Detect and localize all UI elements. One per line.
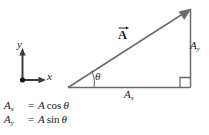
vector-a-line: [68, 13, 185, 88]
x-axis-label: x: [47, 71, 52, 82]
equation-rhs-angle: θ: [62, 113, 67, 125]
equation-rhs-function: cos: [47, 99, 62, 111]
horizontal-component-subscript: x: [131, 94, 134, 101]
equation-equals-sign: =: [24, 99, 38, 111]
equation-lhs-base: A: [4, 99, 11, 111]
triangle-group: [68, 9, 192, 88]
x-axis-arrowhead: [39, 77, 47, 83]
vertical-component-subscript: y: [197, 45, 200, 52]
equation-lhs: Ay: [4, 113, 24, 126]
origin-dot: [20, 77, 25, 82]
equation-rhs-magnitude: A: [38, 113, 45, 125]
equation-rhs-magnitude: A: [38, 99, 45, 111]
vertical-component-label: Ay: [190, 40, 200, 53]
right-angle-marker: [180, 78, 190, 88]
equation-lhs-subscript: x: [11, 105, 14, 112]
vector-a-letter: A: [118, 28, 127, 42]
equation-equals-sign: =: [24, 113, 38, 125]
equation-rhs: Acosθ: [38, 99, 69, 111]
theta-label: θ: [95, 71, 100, 82]
equation-rhs-angle: θ: [63, 99, 68, 111]
theta-arc: [92, 71, 95, 88]
vector-overbar-arrow-icon: [118, 25, 129, 30]
axes-widget: [19, 48, 46, 83]
equation-rhs: Asinθ: [38, 113, 67, 125]
equation-lhs-subscript: y: [11, 119, 14, 126]
equation-lhs: Ax: [4, 99, 24, 112]
vector-a-arrowhead: [179, 9, 192, 20]
equation-rhs-function: sin: [47, 113, 60, 125]
vector-components-figure: y x A Ay Ax θ Ax = Acosθ Ay = Asinθ: [0, 0, 209, 135]
vector-a-label: A: [118, 29, 127, 42]
equation-lhs-base: A: [4, 113, 11, 125]
horizontal-component-label: Ax: [124, 89, 134, 102]
equation-row: Ay = Asinθ: [4, 113, 69, 127]
equation-row: Ax = Acosθ: [4, 99, 69, 113]
equations-block: Ax = Acosθ Ay = Asinθ: [4, 99, 69, 127]
y-axis-label: y: [17, 39, 22, 50]
vertical-component-base: A: [190, 39, 197, 51]
horizontal-component-base: A: [124, 88, 131, 100]
